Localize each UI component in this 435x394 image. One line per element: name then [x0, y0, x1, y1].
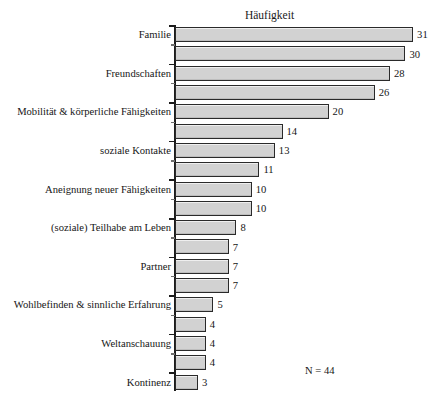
bar-row[interactable]: Aneignung neuer Fähigkeiten10: [0, 179, 435, 200]
bar-row[interactable]: 30: [0, 44, 435, 65]
bar-row[interactable]: 7: [0, 276, 435, 297]
bar[interactable]: [175, 297, 213, 312]
bar[interactable]: [175, 239, 229, 254]
bar-category-label: Aneignung neuer Fähigkeiten: [45, 184, 171, 195]
bar[interactable]: [175, 124, 283, 139]
bar-row[interactable]: Wohlbefinden & sinnliche Erfahrung5: [0, 295, 435, 316]
bar[interactable]: [175, 27, 413, 42]
bar[interactable]: [175, 46, 405, 61]
bar[interactable]: [175, 85, 375, 100]
bar-value-label: 4: [210, 358, 215, 369]
bar-value-label: 31: [417, 30, 428, 41]
bar-row[interactable]: (soziale) Teilhabe am Leben8: [0, 218, 435, 239]
bar-row[interactable]: Kontinenz3: [0, 372, 435, 393]
bar-value-label: 14: [287, 127, 298, 138]
bar-category-label: Freundschaften: [106, 69, 171, 80]
bar-value-label: 28: [394, 69, 405, 80]
bar-value-label: 7: [233, 262, 238, 273]
bar-value-label: 26: [379, 88, 390, 99]
bar-row[interactable]: 4: [0, 353, 435, 374]
bar-row[interactable]: 14: [0, 122, 435, 143]
bar-value-label: 30: [409, 49, 420, 60]
bar-value-label: 4: [210, 339, 215, 350]
bar[interactable]: [175, 66, 390, 81]
bar-row[interactable]: 11: [0, 160, 435, 181]
plot-area: Familie3130Freundschaften2826Mobilität &…: [0, 0, 435, 394]
bar-value-label: 10: [256, 184, 267, 195]
bar-value-label: 4: [210, 320, 215, 331]
bar-row[interactable]: Mobilität & körperliche Fähigkeiten20: [0, 102, 435, 123]
bar[interactable]: [175, 375, 198, 390]
bar-value-label: 7: [233, 281, 238, 292]
bar[interactable]: [175, 182, 252, 197]
bar[interactable]: [175, 162, 259, 177]
bar-value-label: 3: [202, 377, 207, 388]
bar-row[interactable]: 7: [0, 237, 435, 258]
bar-category-label: Weltanschauung: [101, 339, 171, 350]
bar-row[interactable]: 4: [0, 315, 435, 336]
bar-row[interactable]: Freundschaften28: [0, 64, 435, 85]
bar-value-label: 13: [279, 146, 290, 157]
bar[interactable]: [175, 355, 206, 370]
bar-category-label: Wohlbefinden & sinnliche Erfahrung: [14, 300, 171, 311]
sample-size-annotation: N = 44: [305, 365, 335, 376]
bar-value-label: 7: [233, 242, 238, 253]
bar-chart: Häufigkeit Familie3130Freundschaften2826…: [0, 0, 435, 394]
bar-row[interactable]: Familie31: [0, 25, 435, 46]
bar-category-label: Mobilität & körperliche Fähigkeiten: [17, 107, 171, 118]
bar-row[interactable]: Weltanschauung4: [0, 334, 435, 355]
bar-row[interactable]: soziale Kontakte13: [0, 141, 435, 162]
bar-row[interactable]: 26: [0, 83, 435, 104]
bar-value-label: 11: [263, 165, 273, 176]
bar[interactable]: [175, 143, 275, 158]
bar-row[interactable]: 10: [0, 199, 435, 220]
bar-value-label: 10: [256, 204, 267, 215]
bar[interactable]: [175, 317, 206, 332]
bar-value-label: 5: [217, 300, 222, 311]
bar[interactable]: [175, 201, 252, 216]
bar-value-label: 8: [240, 223, 245, 234]
bar-category-label: Familie: [139, 30, 171, 41]
bar[interactable]: [175, 220, 236, 235]
bar-category-label: Kontinenz: [127, 377, 171, 388]
bar-row[interactable]: Partner7: [0, 257, 435, 278]
bar-value-label: 20: [333, 107, 344, 118]
bar[interactable]: [175, 104, 329, 119]
bar[interactable]: [175, 336, 206, 351]
bar-category-label: Partner: [140, 262, 171, 273]
bar-category-label: (soziale) Teilhabe am Leben: [51, 223, 171, 234]
bar[interactable]: [175, 278, 229, 293]
bar[interactable]: [175, 259, 229, 274]
bar-category-label: soziale Kontakte: [100, 146, 171, 157]
